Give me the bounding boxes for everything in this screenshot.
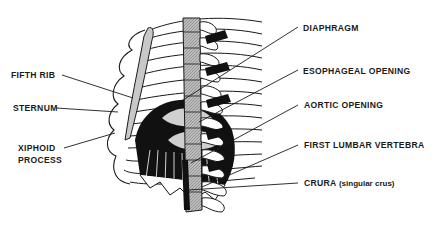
anatomy-illustration xyxy=(0,0,445,227)
label-diaphragm: DIAPHRAGM xyxy=(303,23,359,33)
label-xiphoid: XIPHOID xyxy=(18,143,55,153)
label-first-lumbar-vertebra: FIRST LUMBAR VERTEBRA xyxy=(304,140,424,150)
label-process: PROCESS xyxy=(18,155,62,165)
diaphragm-diagram: FIFTH RIB STERNUM XIPHOID PROCESS DIAPHR… xyxy=(0,0,445,227)
label-crura-note: (singular crus) xyxy=(339,179,395,188)
label-crura-text: CRURA xyxy=(304,178,336,188)
label-fifth-rib: FIFTH RIB xyxy=(11,70,55,80)
label-aortic-opening: AORTIC OPENING xyxy=(304,100,383,110)
label-sternum: STERNUM xyxy=(13,103,58,113)
label-esophageal-opening: ESOPHAGEAL OPENING xyxy=(303,66,410,76)
label-crura: CRURA (singular crus) xyxy=(304,178,395,189)
